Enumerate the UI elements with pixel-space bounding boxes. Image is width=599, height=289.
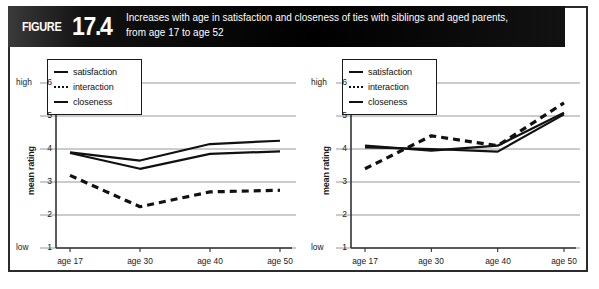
x-tick-age-30: age 30 xyxy=(116,256,164,266)
x-tick-age-40: age 40 xyxy=(474,256,522,266)
figure-badge: FIGURE 17.4 xyxy=(18,6,115,47)
x-tick-age-50: age 50 xyxy=(256,256,304,266)
legend-siblings: satisfaction interaction closeness xyxy=(47,59,142,115)
y-axis-high-label: high xyxy=(16,77,32,87)
legend-item-closeness: closeness xyxy=(349,94,428,109)
legend-item-interaction: interaction xyxy=(349,79,428,94)
y-tick-5: 5 xyxy=(336,110,347,120)
y-tick-2: 2 xyxy=(41,209,52,219)
y-tick-6: 6 xyxy=(41,77,52,87)
legend-label-satisfaction: satisfaction xyxy=(368,66,412,77)
legend-label-closeness: closeness xyxy=(368,96,407,107)
charts-area: satisfaction interaction closeness 12345… xyxy=(8,47,588,272)
legend-key-solid-icon xyxy=(349,71,363,73)
figure-title-line-1: Increases with age in satisfaction and c… xyxy=(126,10,544,25)
y-axis-low-label: low xyxy=(16,242,29,252)
figure-header-bar: FIGURE 17.4 Increases with age in satisf… xyxy=(8,6,565,47)
legend-label-interaction: interaction xyxy=(73,81,114,92)
figure-badge-number: 17.4 xyxy=(72,14,112,39)
y-tick-3: 3 xyxy=(41,176,52,186)
figure-title: Increases with age in satisfaction and c… xyxy=(126,10,544,40)
legend-label-interaction: interaction xyxy=(368,81,409,92)
x-tick-age-50: age 50 xyxy=(540,256,588,266)
legend-key-solid-icon xyxy=(54,71,68,73)
y-axis-title: mean rating xyxy=(321,146,331,195)
y-tick-6: 6 xyxy=(336,77,347,87)
x-tick-age-17: age 17 xyxy=(46,256,94,266)
x-tick-age-17: age 17 xyxy=(341,256,389,266)
legend-aged-parents: satisfaction interaction closeness xyxy=(342,59,437,115)
x-tick-age-40: age 40 xyxy=(186,256,234,266)
y-tick-1: 1 xyxy=(336,242,347,252)
legend-label-satisfaction: satisfaction xyxy=(73,66,117,77)
legend-item-closeness: closeness xyxy=(54,94,133,109)
y-tick-1: 1 xyxy=(41,242,52,252)
x-tick-age-30: age 30 xyxy=(408,256,456,266)
legend-item-interaction: interaction xyxy=(54,79,133,94)
legend-key-dotted-icon xyxy=(54,86,68,88)
y-axis-low-label: low xyxy=(311,242,324,252)
y-axis-high-label: high xyxy=(311,77,327,87)
legend-item-satisfaction: satisfaction xyxy=(349,64,428,79)
figure-container: FIGURE 17.4 Increases with age in satisf… xyxy=(0,0,599,289)
legend-key-solid-icon xyxy=(349,101,363,103)
y-tick-3: 3 xyxy=(336,176,347,186)
y-tick-2: 2 xyxy=(336,209,347,219)
y-axis-title: mean rating xyxy=(26,146,36,195)
figure-title-line-2: from age 17 to age 52 xyxy=(126,25,544,40)
legend-key-dotted-icon xyxy=(349,86,363,88)
chart-aged-parents: satisfaction interaction closeness 12345… xyxy=(298,47,588,272)
y-tick-4: 4 xyxy=(336,143,347,153)
y-tick-4: 4 xyxy=(41,143,52,153)
figure-badge-word: FIGURE xyxy=(22,20,61,34)
legend-item-satisfaction: satisfaction xyxy=(54,64,133,79)
legend-key-solid-icon xyxy=(54,101,68,103)
chart-siblings: satisfaction interaction closeness 12345… xyxy=(8,47,298,272)
y-tick-5: 5 xyxy=(41,110,52,120)
legend-label-closeness: closeness xyxy=(73,96,112,107)
